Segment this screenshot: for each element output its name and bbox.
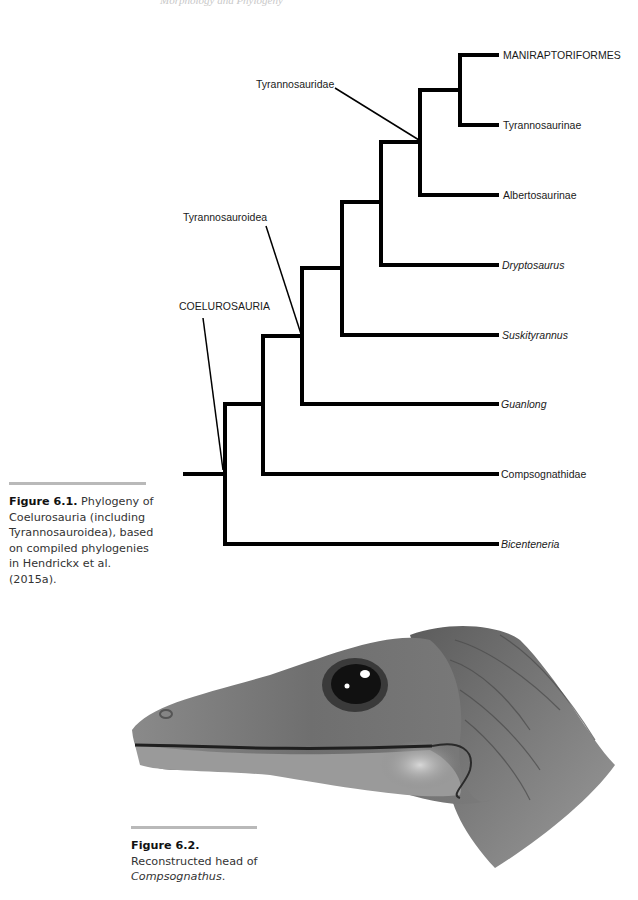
tip-label-suskityrannus: Suskityrannus — [502, 329, 568, 341]
caption-taxon-6-2: Compsognathus — [131, 870, 222, 883]
tip-label-albertosaurinae: Albertosaurinae — [503, 189, 577, 201]
tip-label-guanlong: Guanlong — [501, 398, 547, 410]
caption-rule-6-1 — [9, 482, 146, 485]
clade-label-tyrannosauroidea: Tyrannosauroidea — [183, 211, 267, 223]
clade-label-coelurosauria: COELUROSAURIA — [179, 300, 270, 312]
caption-label-6-1: Figure 6.1. — [9, 495, 78, 508]
tip-label-bicenteneria: Bicenteneria — [501, 538, 559, 550]
caption-text-6-2a: Reconstructed head of — [131, 855, 258, 868]
caption-figure-6-2: Figure 6.2. Reconstructed head of Compso… — [131, 838, 266, 885]
caption-figure-6-1: Figure 6.1. Phylogeny of Coelurosauria (… — [9, 494, 159, 587]
caption-text-6-2b: . — [222, 870, 226, 883]
tip-label-dryptosaurus: Dryptosaurus — [502, 259, 564, 271]
caption-rule-6-2 — [131, 826, 257, 829]
caption-text-6-1: Phylogeny of Coelurosauria (including Ty… — [9, 495, 154, 586]
tip-label-maniraptoriformes: MANIRAPTORIFORMES — [503, 49, 621, 61]
tip-label-tyrannosaurinae: Tyrannosaurinae — [503, 119, 581, 131]
tip-label-compsognathidae: Compsognathidae — [501, 468, 586, 480]
caption-label-6-2: Figure 6.2. — [131, 839, 200, 852]
clade-label-tyrannosauridae: Tyrannosauridae — [256, 78, 334, 90]
